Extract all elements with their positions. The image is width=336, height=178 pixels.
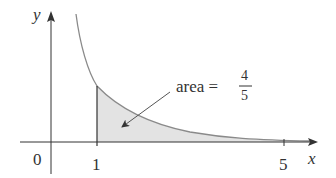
- y-axis-label: y: [31, 5, 41, 24]
- annotation-numerator: 4: [241, 68, 248, 83]
- origin-label: 0: [33, 150, 42, 169]
- annotation-denominator: 5: [241, 88, 248, 103]
- annotation-text: area =: [176, 77, 218, 96]
- tick-label-5: 5: [279, 155, 288, 174]
- tick-label-1: 1: [92, 155, 101, 174]
- area-under-curve-diagram: y x 0 1 5 area = 4 5: [0, 0, 336, 178]
- x-axis-label: x: [307, 149, 316, 168]
